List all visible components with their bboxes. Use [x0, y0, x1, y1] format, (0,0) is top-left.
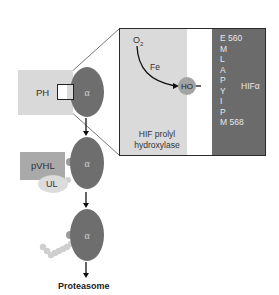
alpha-label: α: [84, 158, 89, 169]
hif-alpha-label: HIFα: [241, 81, 260, 92]
ul-label: UL: [46, 179, 58, 189]
o2-label: O2: [133, 35, 143, 47]
proteasome-label: Proteasome: [58, 281, 110, 291]
hif-alpha-subunit-1: α: [70, 67, 104, 117]
hif-alpha-subunit-3: α: [70, 209, 104, 261]
alpha-label: α: [84, 230, 89, 241]
alpha-label: α: [84, 87, 89, 98]
hydroxyl-group: HO: [178, 77, 196, 95]
pvhl-label: pVHL: [31, 160, 55, 171]
zoom-region-square: [57, 84, 74, 100]
ph-label: PH: [36, 87, 49, 98]
enzyme-label: HIF prolyl hydroxylase: [127, 129, 187, 151]
hydroxylation-inset: O2 Fe HO HIF prolyl hydroxylase E 560 M …: [119, 28, 266, 156]
fe-label: Fe: [150, 62, 160, 72]
hif-alpha-subunit-2: α: [70, 137, 104, 189]
ubiquitin-chain: [40, 241, 74, 258]
